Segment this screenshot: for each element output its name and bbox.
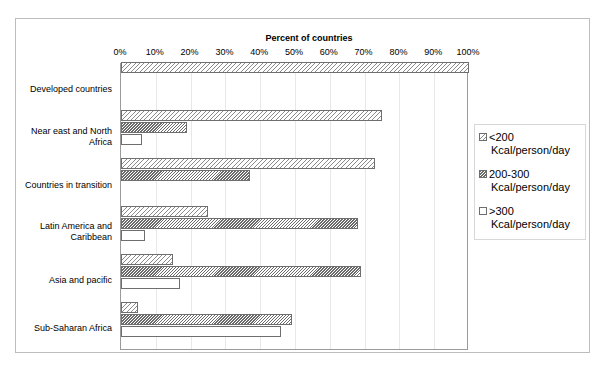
bar (121, 170, 250, 181)
x-tick-label: 60% (314, 47, 344, 57)
y-category-label: Sub-Saharan Africa (12, 323, 112, 334)
legend-item[interactable]: <200Kcal/person/day (479, 131, 581, 157)
chart-legend: <200Kcal/person/day200-300Kcal/person/da… (474, 124, 586, 240)
legend-label-unit: Kcal/person/day (489, 144, 570, 157)
y-axis-category-labels: Developed countriesNear east and North A… (16, 63, 116, 350)
legend-swatch-icon (479, 207, 487, 215)
plot-area (120, 63, 468, 350)
bar (121, 230, 145, 241)
legend-item[interactable]: 200-300Kcal/person/day (479, 168, 581, 194)
legend-label-unit: Kcal/person/day (489, 218, 570, 231)
x-tick-label: 30% (209, 47, 239, 57)
x-tick-label: 0% (105, 47, 135, 57)
x-axis-title: Percent of countries (135, 33, 483, 43)
legend-label: <200Kcal/person/day (489, 131, 570, 157)
legend-item[interactable]: >300Kcal/person/day (479, 205, 581, 231)
y-category-label: Latin America and Caribbean (12, 221, 112, 243)
legend-label-unit: Kcal/person/day (489, 181, 570, 194)
bar (121, 110, 382, 121)
legend-swatch-icon (479, 170, 487, 178)
bar (121, 302, 138, 313)
bar-series-container (121, 64, 467, 349)
bar (121, 122, 187, 133)
bar (121, 254, 173, 265)
y-category-label: Countries in transition (12, 179, 112, 190)
legend-label: >300Kcal/person/day (489, 205, 570, 231)
x-tick-label: 40% (244, 47, 274, 57)
y-category-label: Developed countries (12, 83, 112, 94)
x-tick-label: 50% (279, 47, 309, 57)
bar (121, 314, 292, 325)
bar (121, 218, 358, 229)
x-tick-label: 100% (453, 47, 483, 57)
bar (121, 326, 281, 337)
x-tick-label: 20% (175, 47, 205, 57)
chart-figure: Percent of countries 0%10%20%30%40%50%60… (15, 18, 590, 353)
x-tick-label: 80% (383, 47, 413, 57)
bar (121, 206, 208, 217)
y-category-label: Asia and pacific (12, 275, 112, 286)
bar (121, 62, 469, 73)
legend-label: 200-300Kcal/person/day (489, 168, 570, 194)
legend-swatch-icon (479, 133, 487, 141)
bar (121, 134, 142, 145)
x-tick-label: 90% (418, 47, 448, 57)
bar (121, 158, 375, 169)
x-axis-tick-labels: 0%10%20%30%40%50%60%70%80%90%100% (120, 47, 498, 61)
bar (121, 266, 361, 277)
x-tick-label: 70% (349, 47, 379, 57)
x-tick-label: 10% (140, 47, 170, 57)
y-category-label: Near east and North Africa (12, 126, 112, 148)
bar (121, 278, 180, 289)
